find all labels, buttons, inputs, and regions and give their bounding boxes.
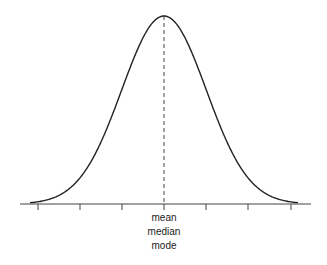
label-mean: mean [134, 211, 194, 225]
axis-ticks [38, 204, 291, 210]
label-median: median [134, 225, 194, 239]
label-mode: mode [134, 239, 194, 253]
